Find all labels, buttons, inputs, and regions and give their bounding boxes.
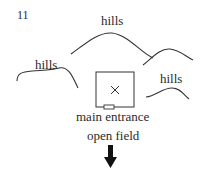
label-hills-top: hills — [101, 14, 123, 27]
site-diagram: 11 hills hills hills main entrance open … — [0, 0, 209, 173]
down-arrow-icon — [104, 145, 117, 168]
x-mark-icon — [111, 86, 119, 94]
label-main-entrance: main entrance — [76, 110, 149, 123]
label-hills-left: hills — [35, 58, 57, 71]
label-open-field: open field — [87, 129, 139, 142]
hill-top-curve-icon — [71, 33, 153, 58]
figure-number: 11 — [17, 9, 29, 21]
label-hills-right: hills — [160, 72, 182, 85]
hill-right-curve-icon — [146, 88, 189, 99]
